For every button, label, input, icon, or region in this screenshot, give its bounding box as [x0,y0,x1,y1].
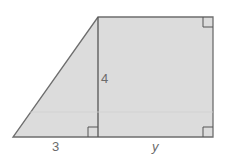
rectangle-base-label: y [152,139,159,154]
trapezoid-figure [0,0,227,158]
height-label: 4 [101,71,108,86]
diagram-canvas: 4 3 y [0,0,227,158]
trapezoid-shape [13,17,213,137]
triangle-base-label: 3 [52,139,59,154]
